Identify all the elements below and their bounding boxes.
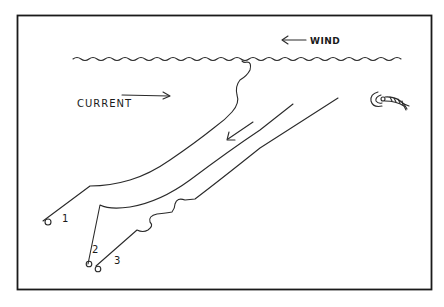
fishing-diagram: WIND CURRENT 1 2 3: [0, 0, 444, 307]
line-1-label: 1: [62, 213, 68, 224]
fishing-line-3: [96, 98, 338, 266]
fishing-line-1: [43, 61, 251, 221]
rod-3-icon: [95, 266, 101, 272]
water-surface-line: [73, 58, 401, 61]
fishing-line-2: [88, 104, 293, 264]
rod-1-icon: [45, 219, 51, 225]
fish-lure-icon: [371, 92, 409, 110]
wind-label: WIND: [310, 36, 340, 46]
diagram-frame: [18, 16, 432, 290]
current-label: CURRENT: [77, 98, 132, 109]
line-2-label: 2: [92, 244, 98, 255]
rod-2-icon: [86, 261, 92, 267]
line-3-label: 3: [114, 255, 120, 266]
wind-arrow-icon: [282, 36, 306, 44]
